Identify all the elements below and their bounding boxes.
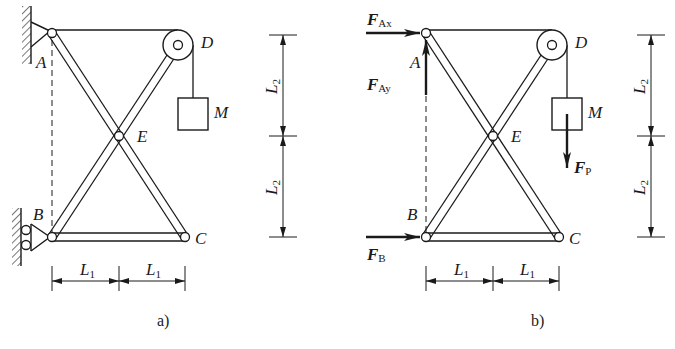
caption-a: a) [157,312,169,330]
bar-bd [49,43,181,240]
label-b: B [33,205,44,224]
dimension-l2: L2 L2 [630,35,665,237]
pin-b [422,233,431,242]
svg-text:L2: L2 [262,180,282,196]
dimension-l2: L2 L2 [262,35,297,237]
label-b: B [407,205,418,224]
label-c: C [195,229,207,248]
pin-e [489,132,498,141]
label-fax: FAx [366,10,392,29]
pin-c [555,233,564,242]
label-e: E [510,127,522,146]
svg-text:L1: L1 [453,260,469,280]
label-e: E [136,127,148,146]
label-fb: FB [366,245,386,264]
scissor-mechanism-figure: A D M E B C L1 L1 L2 L2 a) [0,0,675,349]
mass-block [178,98,208,130]
pin-a [422,29,431,38]
label-fay: FAy [366,75,391,94]
label-c: C [569,229,581,248]
label-d: D [574,33,588,52]
dimension-l1: L1 L1 [52,260,185,291]
label-fp: FP [573,158,591,177]
bar-bd [423,43,555,240]
pin-a [48,29,57,38]
pin-e [115,132,124,141]
svg-text:L2: L2 [630,180,650,196]
bar-bc [426,233,559,241]
panel-b: FAx FAy FB FP A D M E B C L1 L1 L2 L2 [366,10,665,330]
label-a: A [409,53,421,72]
svg-text:L2: L2 [630,79,650,95]
svg-text:L1: L1 [145,260,161,280]
pin-b [48,233,57,242]
caption-b: b) [531,312,544,330]
svg-text:L1: L1 [519,260,535,280]
label-a: A [35,53,47,72]
pulley-d [537,30,567,60]
svg-text:L2: L2 [262,79,282,95]
pulley-d [163,30,193,60]
panel-a: A D M E B C L1 L1 L2 L2 a) [12,6,297,330]
svg-text:L1: L1 [79,260,95,280]
label-m: M [587,103,603,122]
dimension-l1: L1 L1 [426,260,559,291]
roller-wall-support-b [12,208,50,266]
bar-bc [52,233,185,241]
label-m: M [213,103,229,122]
label-d: D [200,33,214,52]
pin-c [181,233,190,242]
